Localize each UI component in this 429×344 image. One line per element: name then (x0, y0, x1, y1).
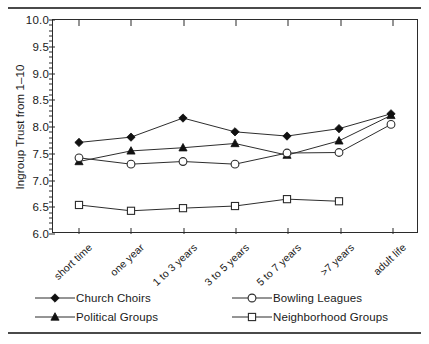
legend-item[interactable]: Church Choirs (34, 288, 214, 307)
series-plot (53, 20, 417, 232)
series-line (79, 199, 339, 211)
data-point-open-circle (127, 160, 135, 168)
x-axis-tick-mark (236, 228, 237, 234)
data-point-open-square (248, 313, 255, 320)
x-axis-tick-mark-top (236, 20, 237, 26)
legend-item-label: Political Groups (76, 311, 158, 323)
data-point-open-circle (75, 154, 83, 162)
x-axis-tick-label: 5 to 7 years (254, 241, 303, 288)
legend-item-label: Bowling Leagues (273, 292, 362, 304)
data-point-filled-diamond (75, 138, 83, 146)
legend-marker-open-square (231, 310, 273, 324)
y-axis-ticks: 6.06.57.07.58.08.59.09.510.0 (9, 20, 49, 234)
x-axis-tick-label: one year (108, 241, 147, 278)
x-axis-tick-mark-top (392, 20, 393, 26)
legend-item-label: Church Choirs (76, 292, 151, 304)
chart-legend: Church ChoirsPolitical Groups Bowling Le… (34, 288, 414, 326)
data-point-open-square (75, 201, 82, 208)
legend-column-right: Bowling LeaguesNeighborhood Groups (231, 288, 411, 326)
x-axis-tick-label: 3 to 5 years (202, 241, 251, 288)
data-point-filled-diamond (127, 133, 135, 141)
y-axis-tick-label: 6.5 (32, 201, 49, 213)
data-point-filled-diamond (179, 114, 187, 122)
y-axis-tick-label: 9.0 (32, 68, 49, 80)
legend-item-label: Neighborhood Groups (273, 311, 388, 323)
chart-figure: Ingroup Trust from 1–10 6.06.57.07.58.08… (0, 0, 429, 344)
legend-swatch (34, 291, 76, 305)
data-point-filled-diamond (335, 124, 343, 132)
x-axis-tick-mark-top (79, 20, 80, 26)
x-axis-tick-mark-top (288, 20, 289, 26)
legend-marker-open-circle (231, 291, 273, 305)
data-point-filled-triangle (51, 312, 59, 320)
legend-marker-filled-triangle (34, 310, 76, 324)
data-point-open-circle (248, 294, 256, 302)
x-axis-tick-mark-top (183, 20, 184, 26)
top-divider-rule (8, 7, 421, 9)
data-point-open-circle (387, 121, 395, 129)
data-point-open-circle (335, 149, 343, 157)
y-axis-tick-mark (49, 234, 55, 235)
data-point-open-square (283, 196, 290, 203)
x-axis-tick-label: >7 years (317, 241, 355, 278)
legend-marker-filled-diamond (34, 291, 76, 305)
y-axis-tick-label: 9.5 (32, 41, 49, 53)
x-axis-tick-label: short time (52, 241, 95, 282)
x-axis-tick-mark (288, 228, 289, 234)
data-point-open-circle (231, 160, 239, 168)
legend-item[interactable]: Bowling Leagues (231, 288, 411, 307)
y-axis-tick-label: 6.0 (32, 228, 49, 240)
data-point-filled-triangle (231, 139, 239, 146)
legend-column-left: Church ChoirsPolitical Groups (34, 288, 214, 326)
data-point-filled-diamond (51, 293, 59, 301)
x-axis-tick-mark (131, 228, 132, 234)
y-axis-tick-label: 8.5 (32, 94, 49, 106)
data-point-open-square (127, 207, 134, 214)
x-axis-tick-mark (79, 228, 80, 234)
data-point-open-square (179, 205, 186, 212)
y-axis-tick-label: 8.0 (32, 121, 49, 133)
legend-item[interactable]: Political Groups (34, 307, 214, 326)
x-axis-tick-label: adult life (371, 241, 409, 277)
data-point-open-square (335, 198, 342, 205)
data-point-filled-diamond (231, 128, 239, 136)
data-point-open-square (231, 202, 238, 209)
y-axis-tick-label: 7.0 (32, 175, 49, 187)
x-axis-tick-mark (392, 228, 393, 234)
x-axis-tick-label: 1 to 3 years (150, 241, 199, 288)
y-axis-tick-label: 10.0 (26, 14, 49, 26)
data-point-open-circle (283, 149, 291, 157)
x-axis-tick-mark (340, 228, 341, 234)
legend-swatch (231, 291, 273, 305)
y-axis-tick-label: 7.5 (32, 148, 49, 160)
data-point-open-circle (179, 158, 187, 166)
data-point-filled-triangle (335, 137, 343, 144)
data-point-filled-diamond (283, 132, 291, 140)
legend-item[interactable]: Neighborhood Groups (231, 307, 411, 326)
bottom-divider-rule (8, 332, 421, 334)
x-axis-tick-mark-top (340, 20, 341, 26)
plot-area: Ingroup Trust from 1–10 6.06.57.07.58.08… (52, 19, 418, 233)
x-axis-tick-mark (183, 228, 184, 234)
legend-swatch (231, 310, 273, 324)
x-axis-tick-mark-top (131, 20, 132, 26)
legend-swatch (34, 310, 76, 324)
